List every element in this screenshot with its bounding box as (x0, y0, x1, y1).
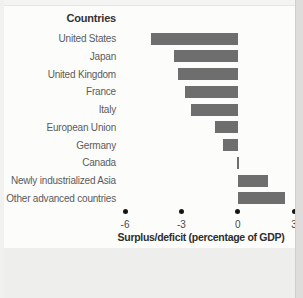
budget-chart-figure: Countries United StatesJapanUnited Kingd… (0, 0, 303, 298)
axis-tick-label--3: -3 (168, 219, 194, 230)
country-label-italy: Italy (0, 104, 116, 116)
axis-tick-dot--6 (123, 209, 128, 214)
axis-tick-dot--3 (179, 209, 184, 214)
bar-other-advanced-countries (238, 192, 285, 204)
caption-area: Government Budgets Around the World Sour… (0, 248, 296, 298)
bar-germany (223, 139, 238, 151)
left-page-shade (0, 0, 4, 298)
bar-japan (174, 50, 238, 62)
bar-france (185, 86, 238, 98)
country-label-united-kingdom: United Kingdom (0, 69, 116, 81)
axis-tick-label--6: -6 (112, 219, 138, 230)
x-axis-title: Surplus/deficit (percentage of GDP) (61, 231, 303, 243)
countries-column-header: Countries (0, 12, 116, 24)
axis-tick-label-0: 0 (225, 219, 251, 230)
country-label-newly-industrialized-asia: Newly industrialized Asia (0, 175, 116, 187)
right-page-edge (295, 0, 303, 298)
bar-united-kingdom (178, 68, 238, 80)
axis-tick-dot-0 (235, 209, 240, 214)
country-label-canada: Canada (0, 157, 116, 169)
country-label-germany: Germany (0, 140, 116, 152)
top-edge-band (0, 0, 296, 6)
bar-canada (237, 157, 239, 169)
bar-italy (191, 104, 238, 116)
bar-european-union (215, 121, 238, 133)
country-label-other-advanced-countries: Other advanced countries (0, 193, 116, 205)
bar-newly-industrialized-asia (238, 175, 268, 187)
country-label-united-states: United States (0, 33, 116, 45)
bar-united-states (151, 33, 237, 45)
country-label-european-union: European Union (0, 122, 116, 134)
country-label-france: France (0, 86, 116, 98)
country-label-japan: Japan (0, 51, 116, 63)
